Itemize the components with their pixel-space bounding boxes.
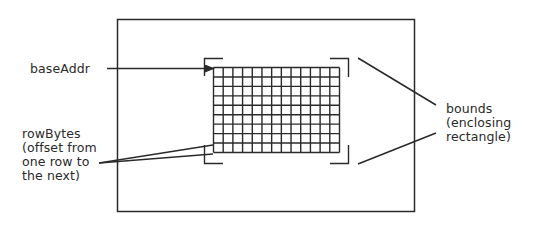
row-bytes-label-line-2: (offset from xyxy=(22,140,97,155)
row-bytes-label-line-1: rowBytes xyxy=(22,126,81,141)
diagram-canvas: baseAddr rowBytes (offset from one row t… xyxy=(0,0,535,226)
base-addr-label: baseAddr xyxy=(30,61,91,76)
row-bytes-leader-lines xyxy=(99,145,213,163)
row-bytes-label-line-4: the next) xyxy=(22,168,80,183)
row-bytes-label-line-3: one row to xyxy=(22,154,90,169)
bounds-label-line-2: (enclosing xyxy=(446,115,511,130)
bounds-label-line-1: bounds xyxy=(446,101,492,116)
bounds-label-line-3: rectangle) xyxy=(446,129,511,144)
bit-image-grid xyxy=(214,68,340,153)
outer-memory-rect xyxy=(118,20,415,212)
bounds-corner-brackets xyxy=(205,59,349,164)
bounds-leader-lines xyxy=(358,58,436,164)
